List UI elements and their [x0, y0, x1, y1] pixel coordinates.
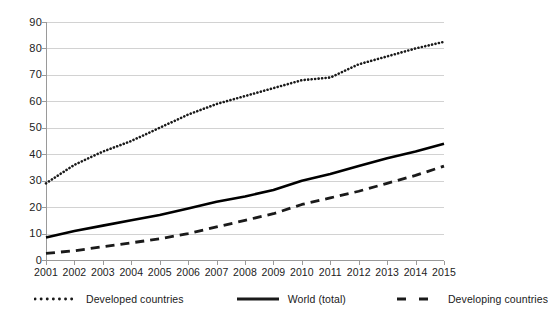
x-axis-tick-mark	[245, 261, 246, 265]
x-axis-tick-mark	[330, 261, 331, 265]
x-axis-tick-mark	[359, 261, 360, 265]
legend-swatch-dotted-icon	[34, 294, 78, 304]
chart-legend: Developed countriesWorld (total)Developi…	[0, 288, 459, 310]
x-axis-tick-mark	[444, 261, 445, 265]
x-axis-tick-mark	[273, 261, 274, 265]
legend-item[interactable]: World (total)	[236, 293, 346, 305]
legend-label: Developed countries	[86, 293, 184, 305]
legend-label: World (total)	[288, 293, 346, 305]
x-axis-tick-mark	[188, 261, 189, 265]
x-axis-tick-mark	[160, 261, 161, 265]
x-axis-tick-mark	[103, 261, 104, 265]
legend-swatch-solid-icon	[236, 294, 280, 304]
legend-item[interactable]: Developed countries	[34, 293, 184, 305]
x-axis-tick-mark	[302, 261, 303, 265]
legend-item[interactable]: Developing countries	[396, 293, 548, 305]
x-axis-tick-mark	[387, 261, 388, 265]
x-axis-tick-mark	[416, 261, 417, 265]
legend-swatch-dashed-icon	[396, 294, 440, 304]
x-axis-tick-mark	[217, 261, 218, 265]
x-axis-tick-mark	[74, 261, 75, 265]
legend-label: Developing countries	[448, 293, 548, 305]
x-axis-tick-label: 2015	[424, 266, 464, 278]
x-axis-tick-mark	[46, 261, 47, 265]
x-axis-tick-mark	[131, 261, 132, 265]
